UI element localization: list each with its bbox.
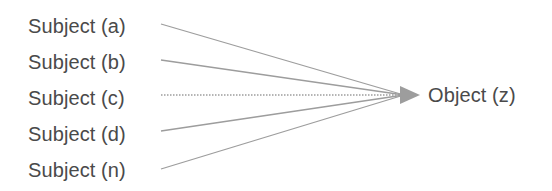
- subject-label-n-text: Subject (n): [28, 159, 126, 181]
- edge-line-b: [161, 60, 404, 95]
- subject-label-c-text: Subject (c): [28, 87, 125, 109]
- subject-label-a: Subject (a): [28, 16, 126, 36]
- subject-label-a-text: Subject (a): [28, 15, 126, 37]
- arrowhead-icon: [400, 86, 420, 104]
- subject-label-d: Subject (d): [28, 124, 126, 144]
- subject-label-b-text: Subject (b): [28, 51, 126, 73]
- edge-line-a: [161, 24, 404, 95]
- edge-line-d: [161, 95, 404, 131]
- subject-label-c: Subject (c): [28, 88, 125, 108]
- object-label: Object (z): [428, 85, 516, 105]
- convergence-diagram: Subject (a) Subject (b) Subject (c) Subj…: [0, 0, 552, 191]
- object-label-text: Object (z): [428, 84, 516, 106]
- edge-line-n: [161, 95, 404, 169]
- subject-label-n: Subject (n): [28, 160, 126, 180]
- edge-lines-group: [161, 24, 404, 169]
- subject-label-b: Subject (b): [28, 52, 126, 72]
- subject-label-d-text: Subject (d): [28, 123, 126, 145]
